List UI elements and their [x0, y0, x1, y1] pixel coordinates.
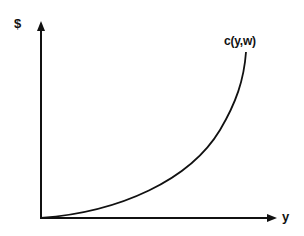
cost-curve	[41, 52, 246, 218]
x-axis-arrow-icon	[267, 214, 277, 222]
curve-label: c(y,w)	[224, 35, 256, 47]
diagram-canvas	[0, 0, 304, 236]
y-axis-arrow-icon	[37, 21, 45, 31]
x-axis-label: y	[282, 210, 289, 223]
cost-curve-diagram: $ y c(y,w)	[0, 0, 304, 236]
y-axis-label: $	[14, 17, 21, 30]
